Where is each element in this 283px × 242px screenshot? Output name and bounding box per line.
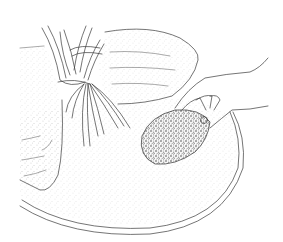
illustration-canvas xyxy=(0,0,283,242)
mound-left xyxy=(20,46,63,190)
illustration xyxy=(0,0,283,242)
mound-back xyxy=(99,29,198,104)
